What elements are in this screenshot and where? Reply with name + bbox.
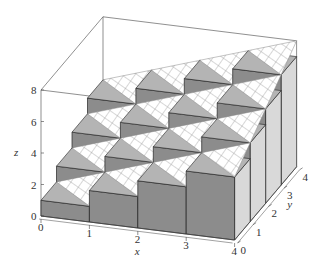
y-tick-label: 1 — [256, 226, 262, 238]
x-tick-label: 2 — [135, 233, 141, 245]
bar-side — [266, 91, 282, 204]
z-tick-label: 0 — [31, 210, 37, 222]
bars — [41, 41, 297, 240]
z-tick-label: 2 — [31, 179, 37, 191]
bar-front — [186, 171, 234, 240]
bar3d-figure: 024680123401234xyz — [0, 0, 310, 269]
z-tick-label: 8 — [31, 84, 37, 96]
x-tick-label: 0 — [38, 221, 44, 233]
z-axis-label: z — [13, 146, 19, 158]
x-tick-label: 3 — [183, 239, 189, 251]
plot-area: 024680123401234xyz — [0, 0, 310, 269]
y-tick-label: 4 — [303, 171, 309, 183]
x-tick-label: 1 — [86, 227, 92, 239]
y-tick-label: 2 — [272, 207, 278, 219]
y-axis-label: y — [286, 198, 292, 210]
x-axis-label: x — [134, 245, 140, 257]
z-tick-label: 4 — [31, 147, 37, 159]
z-tick-label: 6 — [31, 116, 37, 128]
x-tick-label: 4 — [232, 245, 238, 257]
bar-side — [281, 57, 297, 186]
bar-front — [138, 181, 186, 234]
y-tick-label: 0 — [241, 244, 247, 256]
bar-front — [89, 191, 137, 229]
